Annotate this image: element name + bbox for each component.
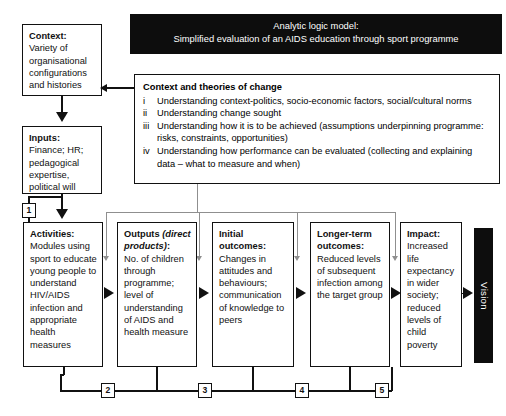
outputs-heading-pre: Outputs: [124, 229, 160, 239]
inputs-box-heading: Inputs:: [29, 132, 96, 144]
theories-item-text: Understanding how it is to be achieved (…: [157, 120, 492, 145]
feedback-drop-activities: [106, 212, 107, 259]
initial-outcomes-heading: Initial outcomes:: [219, 228, 288, 253]
tag-1: 1: [22, 203, 36, 218]
activities-box-heading: Activities:: [30, 228, 97, 240]
longer-term-outcomes-body: Reduced levels of subsequent infection a…: [317, 253, 384, 302]
feedback-drop-longer: [395, 212, 396, 259]
theories-feedback-bus: [106, 212, 396, 213]
inputs-box-body: Finance; HR; pedagogical expertise, poli…: [29, 144, 96, 193]
inputs-box: Inputs: Finance; HR; pedagogical experti…: [22, 126, 102, 194]
longer-bottom-drop: [349, 367, 351, 391]
activities-bottom-drop-v: [60, 374, 62, 391]
longer-term-outcomes-box: Longer-term outcomes: Reduced levels of …: [310, 222, 390, 367]
theories-item: i Understanding context-politics, socio-…: [143, 95, 492, 108]
initial-to-longer-arrow: [296, 287, 306, 299]
activities-box: Activities: Modules using sport to educa…: [23, 222, 103, 367]
theories-title: Context and theories of change: [143, 81, 492, 94]
feedback-arrow-initial: [294, 256, 300, 261]
initial-outcomes-box: Initial outcomes: Changes in attitudes a…: [212, 222, 294, 367]
diagram-title-banner: Analytic logic model: Simplified evaluat…: [130, 14, 502, 54]
theories-item-number: ii: [143, 107, 157, 120]
outputs-bottom-drop: [156, 367, 158, 391]
context-box: Context: Variety of organisational confi…: [22, 24, 102, 96]
theories-item: iv Understanding how performance can be …: [143, 145, 492, 170]
context-box-body: Variety of organisational configurations…: [29, 42, 96, 91]
tag-3: 3: [198, 383, 212, 398]
outputs-box-heading: Outputs (direct products):: [124, 228, 191, 253]
theories-item-text: Understanding context-politics, socio-ec…: [157, 95, 492, 108]
outputs-to-initial-arrow: [199, 287, 209, 299]
initial-outcomes-body: Changes in attitudes and behaviours; com…: [219, 253, 288, 327]
vision-label: Vision: [478, 282, 489, 310]
theories-box: Context and theories of change i Underst…: [134, 74, 500, 184]
theories-to-context-arrowhead: [100, 84, 107, 92]
outputs-box: Outputs (direct products): No. of childr…: [117, 222, 197, 367]
outputs-box-body: No. of children through programme; level…: [124, 253, 191, 339]
theories-item-text: Understanding how performance can be eva…: [157, 145, 492, 170]
theories-item: iii Understanding how it is to be achiev…: [143, 120, 492, 145]
feedback-arrow-longer: [392, 256, 398, 261]
context-box-heading: Context:: [29, 30, 96, 42]
tag-4: 4: [295, 383, 309, 398]
activities-bottom-stub: [63, 367, 65, 375]
impact-box: Impact: Increased life expectancy in wid…: [400, 222, 462, 367]
longer-to-impact-arrow: [391, 287, 401, 299]
analytic-logic-model-diagram: Analytic logic model: Simplified evaluat…: [0, 0, 506, 416]
theories-item-number: i: [143, 95, 157, 108]
banner-line-2: Simplified evaluation of an AIDS educati…: [130, 33, 502, 46]
theories-item-number: iii: [143, 120, 157, 145]
tag-5: 5: [375, 383, 389, 398]
feedback-drop-initial: [297, 212, 298, 259]
initial-bottom-drop: [252, 367, 254, 391]
theories-item: ii Understanding change sought: [143, 107, 492, 120]
impact-bottom-drop: [391, 367, 393, 391]
impact-box-heading: Impact:: [407, 228, 456, 240]
tag-2: 2: [101, 383, 115, 398]
tag1-branch-top: [28, 196, 62, 198]
activities-box-body: Modules using sport to educate young peo…: [30, 240, 97, 351]
vision-bar: Vision: [474, 228, 493, 363]
impact-to-vision-arrow: [463, 287, 473, 299]
banner-line-1: Analytic logic model:: [130, 20, 502, 33]
outputs-heading-post: :: [167, 241, 170, 251]
theories-feedback-stem: [197, 184, 198, 213]
activities-to-outputs-arrow: [104, 287, 114, 299]
inputs-to-activities-arrowhead: [56, 209, 68, 219]
theories-item-number: iv: [143, 145, 157, 170]
context-to-inputs-arrowhead: [56, 112, 68, 122]
theories-item-text: Understanding change sought: [157, 107, 492, 120]
impact-box-body: Increased life expectancy in wider socie…: [407, 240, 456, 351]
feedback-arrow-activities: [103, 256, 109, 261]
longer-term-outcomes-heading: Longer-term outcomes:: [317, 228, 384, 253]
feedback-drop-outputs: [199, 212, 200, 259]
